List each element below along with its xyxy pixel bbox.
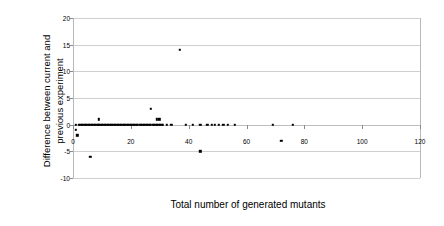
data-point <box>166 123 168 125</box>
x-axis-tick <box>420 125 421 129</box>
data-point <box>158 118 160 120</box>
x-axis-tick <box>304 125 305 129</box>
data-point <box>98 118 100 120</box>
data-point <box>218 123 220 125</box>
y-axis-tick <box>69 178 73 179</box>
data-point <box>227 123 229 125</box>
data-point <box>222 123 224 125</box>
x-axis-tick-label: 100 <box>357 138 368 145</box>
x-axis-title: Total number of generated mutants <box>73 199 423 210</box>
data-point <box>170 123 172 125</box>
data-point <box>213 123 215 125</box>
x-axis-tick-label: 20 <box>127 138 134 145</box>
y-axis-tick <box>69 151 73 152</box>
data-point <box>89 155 91 157</box>
x-axis-tick <box>362 125 363 129</box>
data-point <box>292 123 294 125</box>
data-point <box>161 123 163 125</box>
x-axis-tick <box>247 125 248 129</box>
data-point <box>234 123 236 125</box>
x-axis-tick-label: 80 <box>301 138 308 145</box>
x-axis-tick-label: 0 <box>71 138 75 145</box>
data-point <box>150 107 152 109</box>
data-point <box>271 123 273 125</box>
y-gridline <box>73 45 420 46</box>
data-point <box>76 134 78 136</box>
y-axis-tick <box>69 18 73 19</box>
data-point <box>179 49 181 51</box>
x-axis-tick-label: 40 <box>185 138 192 145</box>
data-point <box>199 150 201 152</box>
data-point <box>206 123 208 125</box>
y-axis-tick-labels: -10-505101520 <box>55 18 70 178</box>
y-gridline <box>73 98 420 99</box>
x-axis-tick-label: 60 <box>243 138 250 145</box>
y-axis-tick <box>69 125 73 126</box>
y-axis-tick <box>69 71 73 72</box>
y-axis-title-line-1: Difference between current and <box>41 35 52 167</box>
x-axis-tick-label: 120 <box>415 138 426 145</box>
y-axis-line <box>73 18 74 178</box>
scatter-chart-figure: Difference between current and previous … <box>0 0 444 226</box>
data-point <box>75 129 77 131</box>
data-point <box>185 123 187 125</box>
y-axis-tick <box>69 45 73 46</box>
x-axis-tick <box>189 125 190 129</box>
y-axis-line <box>420 18 421 178</box>
data-point <box>199 123 201 125</box>
x-axis-tick-labels: 020406080100120 <box>73 138 420 150</box>
data-point <box>192 123 194 125</box>
y-gridline <box>73 18 420 19</box>
y-gridline <box>73 178 420 179</box>
y-axis-title-container: Difference between current and previous … <box>0 0 46 200</box>
y-gridline <box>73 151 420 152</box>
y-axis-tick <box>69 98 73 99</box>
plot-area <box>73 18 420 178</box>
y-gridline <box>73 71 420 72</box>
